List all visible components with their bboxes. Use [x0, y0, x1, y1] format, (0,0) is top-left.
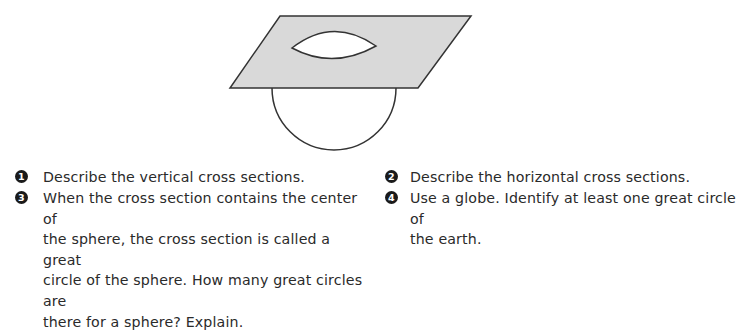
question-4-text: Use a globe. Identify at least one great… — [410, 188, 740, 250]
number-badge-3: 3 — [15, 191, 28, 204]
sphere-plane-diagram — [0, 0, 741, 170]
number-badge-2: 2 — [385, 170, 398, 183]
question-1-text: Describe the vertical cross sections. — [43, 167, 373, 188]
sphere-lower-half — [272, 88, 396, 150]
number-badge-1: 1 — [15, 170, 28, 183]
question-3-text: When the cross section contains the cent… — [43, 188, 373, 332]
number-badge-4: 4 — [385, 191, 398, 204]
question-2-text: Describe the horizontal cross sections. — [410, 167, 740, 188]
